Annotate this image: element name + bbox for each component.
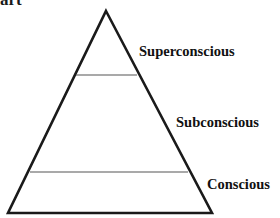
level-label-subconscious: Subconscious: [176, 114, 259, 130]
pyramid-outline: [8, 11, 212, 213]
level-label-superconscious: Superconscious: [139, 43, 235, 59]
level-label-conscious: Conscious: [207, 176, 270, 192]
pyramid-figure: art Superconscious Subconscious Consciou…: [0, 0, 280, 218]
